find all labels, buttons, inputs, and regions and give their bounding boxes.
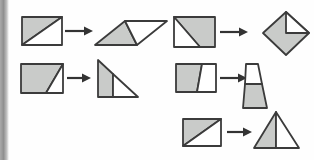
pair-5 [183, 112, 299, 148]
pair-5-target-isosceles-triangle-vertical-split-left-shaded-part1 [254, 112, 276, 148]
pair-2-target-diamond-white-upper-right-quadrant-part2 [286, 12, 309, 33]
pair-5-target-isosceles-triangle-vertical-split-left-shaded-part2 [276, 112, 299, 148]
scanned-worksheet-page [0, 0, 314, 160]
pair-3 [21, 60, 138, 97]
pair-3-right-arrow-icon [82, 74, 91, 83]
pair-4-target-tall-trapezoid-bottom-shaded-part2 [243, 84, 267, 108]
pair-5-right-arrow-icon [243, 128, 252, 137]
shape-transformation-diagram [0, 0, 314, 160]
pair-3-target-right-triangle-vertical-split-left-shaded-part1 [98, 60, 113, 97]
pair-3-target-right-triangle-vertical-split-left-shaded-part2 [113, 74, 138, 97]
pair-2-right-arrow-icon [239, 28, 248, 37]
pair-4 [176, 64, 267, 108]
pair-2 [174, 12, 309, 55]
pair-4-target-tall-trapezoid-bottom-shaded-part1 [245, 64, 262, 84]
pair-1-right-arrow-icon [84, 27, 93, 36]
pair-1 [22, 17, 167, 45]
